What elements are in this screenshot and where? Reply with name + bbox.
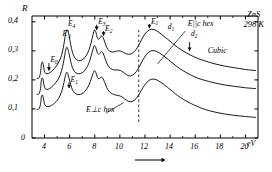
temperature-label: 298 K: [243, 20, 264, 30]
x-tick-label-1: 6: [67, 143, 71, 151]
peak-label-E4: E4: [68, 20, 75, 28]
peak-label-E1p: E'1: [62, 30, 71, 38]
peak-label-d2: d2: [191, 30, 198, 38]
x-tick-label-8: 20: [240, 143, 248, 151]
peak-label-E1: E1: [71, 76, 78, 84]
annotation-e-par: E||c hex: [188, 20, 214, 28]
peak-label-E2: E2: [105, 25, 112, 33]
y-axis-title: R: [22, 4, 28, 13]
plot-canvas: [0, 0, 272, 172]
annotation-cubic: Cubic: [208, 47, 227, 55]
x-tick-label-6: 16: [190, 143, 198, 151]
x-direction-arrowhead: [162, 158, 166, 162]
x-tick-label-2: 8: [92, 143, 96, 151]
x-tick-label-3: 10: [115, 143, 123, 151]
y-tick-label-0: 0: [21, 134, 25, 142]
reflectance-spectrum-figure: R ZnS 298 K eV 00,10,20,30,4 46810121416…: [0, 0, 272, 172]
x-tick-label-7: 18: [215, 143, 223, 151]
sample-annotation: ZnS 298 K: [243, 10, 264, 30]
annotation-e-perp: E⊥c hex: [86, 106, 115, 114]
peak-arrowhead-E0: [47, 67, 51, 70]
x-tick-label-4: 12: [140, 143, 148, 151]
peak-arrowhead-E1: [67, 85, 71, 88]
y-tick-label-4: 0,4: [8, 17, 18, 25]
leader-e-parallel: [158, 31, 186, 64]
x-tick-label-5: 14: [165, 143, 173, 151]
peak-arrowhead-d2: [188, 47, 192, 50]
peak-label-E0: E0: [50, 56, 57, 64]
y-tick-label-3: 0,3: [8, 46, 18, 54]
peak-arrowhead-E3: [95, 27, 99, 30]
y-tick-label-1: 0,1: [8, 104, 18, 112]
x-tick-label-0: 4: [42, 143, 46, 151]
y-tick-label-2: 0,2: [8, 75, 18, 83]
peak-label-d1: d1: [168, 23, 175, 31]
peak-label-E1b: E1: [151, 18, 158, 26]
